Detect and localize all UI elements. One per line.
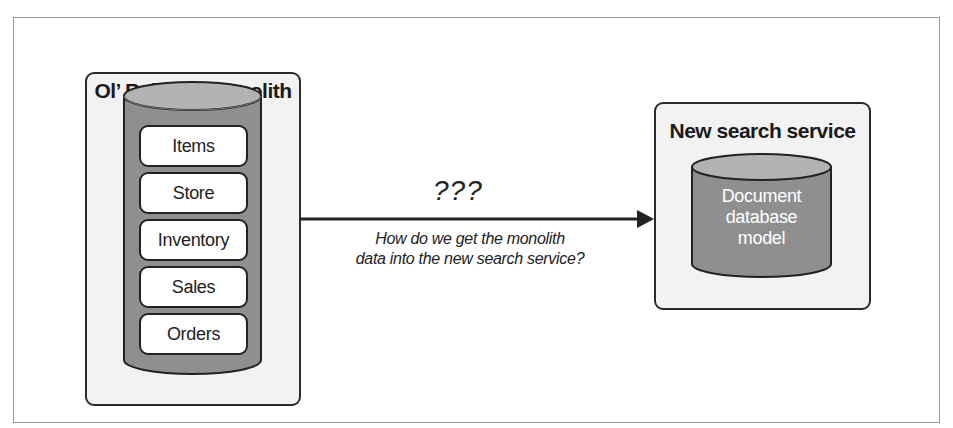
- monolith-item-inventory: Inventory: [139, 219, 248, 261]
- caption-line1: How do we get the monolith: [320, 229, 620, 249]
- document-database-label: Document database model: [692, 186, 831, 249]
- connector-caption: How do we get the monolith data into the…: [320, 229, 620, 269]
- db-label-line3: model: [692, 228, 831, 249]
- monolith-item-sales: Sales: [139, 266, 248, 308]
- data-flow-arrow: [301, 210, 654, 228]
- db-label-line2: database: [692, 207, 831, 228]
- db-label-line1: Document: [692, 186, 831, 207]
- monolith-item-store: Store: [139, 172, 248, 214]
- monolith-item-orders: Orders: [139, 313, 248, 355]
- unknown-approach-label: ???: [433, 175, 483, 207]
- caption-line2: data into the new search service?: [320, 249, 620, 269]
- monolith-item-items: Items: [139, 125, 248, 167]
